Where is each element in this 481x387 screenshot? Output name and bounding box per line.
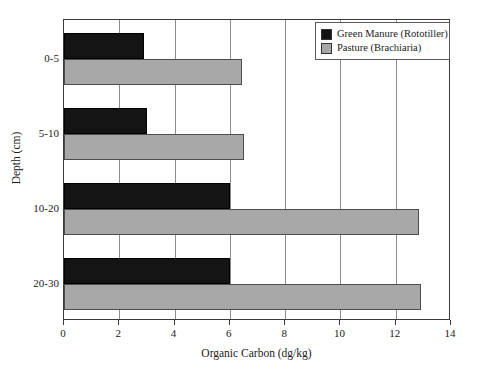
plot-area [63,19,450,320]
x-tick-label: 8 [264,327,304,339]
bar-10-20-series-0 [64,183,230,209]
bar-10-20-series-1 [64,209,419,235]
y-tick-label-0-5: 0-5 [7,52,59,64]
x-tick-mark [339,320,340,325]
legend-label-green-manure: Green Manure (Rototiller) [337,28,448,40]
legend-swatch-green-manure [321,29,332,40]
x-tick-mark [450,320,451,325]
x-tick-label: 14 [430,327,470,339]
legend-item: Pasture (Brachiaria) [321,41,445,55]
x-tick-mark [284,320,285,325]
bar-20-30-series-0 [64,258,230,284]
bar-5-10-series-0 [64,108,147,134]
x-tick-label: 4 [154,327,194,339]
y-axis-title: Depth (cm) [10,98,22,218]
y-tick-label-20-30: 20-30 [7,277,59,289]
legend-item: Green Manure (Rototiller) [321,27,445,41]
legend-swatch-pasture [321,43,332,54]
gridline [285,20,286,319]
bar-0-5-series-1 [64,59,242,85]
gridline [396,20,397,319]
bar-0-5-series-0 [64,33,144,59]
x-axis-title: Organic Carbon (dg/kg) [63,347,450,359]
x-tick-label: 10 [319,327,359,339]
x-tick-mark [174,320,175,325]
x-tick-mark [63,320,64,325]
bar-5-10-series-1 [64,134,244,160]
bar-chart-figure: 02468101214 0-55-1010-2020-30 Organic Ca… [0,0,481,387]
x-tick-label: 6 [209,327,249,339]
bar-20-30-series-1 [64,284,421,310]
x-tick-mark [395,320,396,325]
x-tick-label: 12 [375,327,415,339]
legend: Green Manure (Rototiller) Pasture (Brach… [315,22,450,60]
x-tick-label: 0 [43,327,83,339]
x-tick-label: 2 [98,327,138,339]
legend-label-pasture: Pasture (Brachiaria) [337,42,421,54]
gridline [340,20,341,319]
x-tick-mark [229,320,230,325]
x-tick-mark [118,320,119,325]
